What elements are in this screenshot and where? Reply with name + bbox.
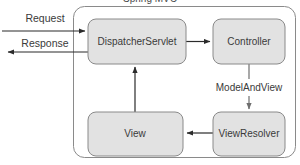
- dispatcher-servlet-label: DispatcherServlet: [98, 36, 177, 47]
- view-label: View: [124, 128, 146, 139]
- response-label: Response: [21, 37, 68, 49]
- request-label: Request: [25, 12, 64, 24]
- model-and-view-label: ModelAndView: [216, 82, 283, 93]
- controller-label: Controller: [227, 36, 271, 47]
- diagram-canvas: Request Response ModelAndView Dispatcher…: [0, 0, 300, 165]
- spring-mvc-flow-diagram: Spring MVC Request Response ModelAndView: [0, 0, 300, 165]
- view-resolver-label: ViewResolver: [219, 128, 281, 139]
- node-controller[interactable]: Controller: [213, 19, 285, 64]
- node-view-resolver[interactable]: ViewResolver: [213, 112, 285, 156]
- node-view[interactable]: View: [88, 112, 183, 156]
- node-dispatcher-servlet[interactable]: DispatcherServlet: [88, 19, 186, 64]
